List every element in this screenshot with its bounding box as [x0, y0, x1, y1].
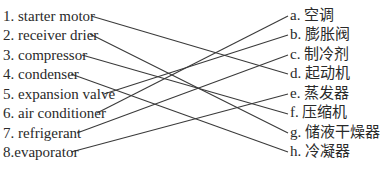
match-line-5-b — [104, 35, 288, 94]
left-item-4: 4. condenser — [3, 66, 79, 82]
left-item-8: 8.evaporator — [3, 144, 78, 160]
left-item-5: 5. expansion valve — [3, 86, 115, 102]
right-item-d: d. 起动机 — [290, 65, 350, 81]
left-item-7: 7. refrigerant — [3, 125, 81, 141]
right-item-c: c. 制冷剂 — [290, 46, 349, 62]
left-item-6: 6. air conditioner — [3, 105, 106, 121]
right-item-e: e. 蒸发器 — [290, 85, 349, 101]
match-line-2-g — [90, 34, 288, 133]
left-item-1: 1. starter motor — [3, 8, 95, 24]
left-item-2: 2. receiver drier — [3, 27, 98, 43]
left-item-3: 3. compressor — [3, 47, 87, 63]
match-line-6-a — [97, 16, 288, 113]
right-item-b: b. 膨胀阀 — [290, 26, 350, 42]
right-item-h: h. 冷凝器 — [290, 143, 350, 159]
right-item-g: g. 储液干燥器 — [290, 124, 380, 140]
right-item-f: f. 压缩机 — [290, 104, 348, 120]
right-item-a: a. 空调 — [290, 7, 334, 23]
